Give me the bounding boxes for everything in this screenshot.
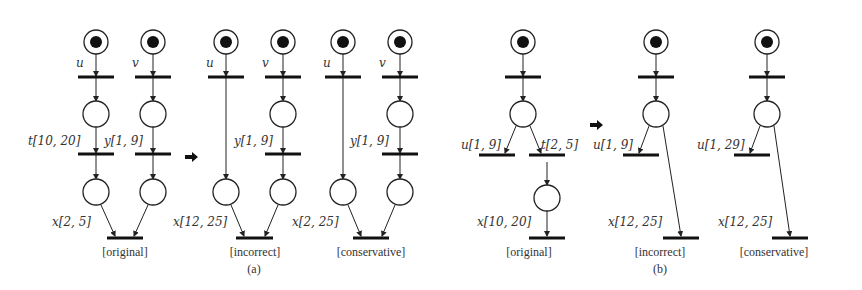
- petri-net-figure: u v t[10, 20] y[1, 9] x[2, 5] [original]…: [0, 0, 862, 290]
- label-u: u[1, 9]: [461, 138, 501, 152]
- label-u: u: [206, 56, 214, 70]
- label-x: x[2, 25]: [292, 215, 339, 229]
- label-u: u: [76, 56, 84, 70]
- label-x: x[12, 25]: [608, 215, 663, 229]
- label-t: t[2, 5]: [541, 138, 578, 152]
- label-x: x[12, 25]: [718, 215, 773, 229]
- label-u: u[1, 29]: [697, 138, 745, 152]
- label-t: t[10, 20]: [28, 134, 81, 148]
- label-x: x[12, 25]: [173, 215, 228, 229]
- part-b-caption: (b): [653, 262, 667, 276]
- label-x: x[10, 20]: [477, 215, 532, 229]
- label-y: y[1, 9]: [349, 134, 389, 148]
- caption-original: [original]: [102, 245, 147, 259]
- label-x: x[2, 5]: [52, 215, 91, 229]
- caption-conservative: [conservative]: [740, 245, 809, 259]
- label-u: u[1, 9]: [593, 138, 633, 152]
- caption-original: [original]: [506, 245, 551, 259]
- net-a-conservative: u v y[1, 9] x[2, 25] [conservative]: [292, 30, 418, 259]
- transform-arrow-icon: [185, 152, 198, 162]
- label-v: v: [379, 56, 386, 70]
- label-v: v: [132, 56, 139, 70]
- net-b-conservative: u[1, 29] x[12, 25] [conservative]: [697, 30, 808, 259]
- net-b-original: u[1, 9] t[2, 5] x[10, 20] [original]: [461, 30, 578, 259]
- part-a-caption: (a): [247, 262, 260, 276]
- label-y: y[1, 9]: [233, 134, 273, 148]
- caption-incorrect: [incorrect]: [230, 245, 281, 259]
- label-y: y[1, 9]: [103, 134, 143, 148]
- label-u: u: [323, 56, 331, 70]
- label-v: v: [262, 56, 269, 70]
- net-b-incorrect: u[1, 9] x[12, 25] [incorrect] (b): [593, 30, 699, 276]
- caption-incorrect: [incorrect]: [635, 245, 686, 259]
- net-a-original: u v t[10, 20] y[1, 9] x[2, 5] [original]: [28, 30, 171, 259]
- transform-arrow-icon: [590, 120, 603, 130]
- caption-conservative: [conservative]: [337, 245, 406, 259]
